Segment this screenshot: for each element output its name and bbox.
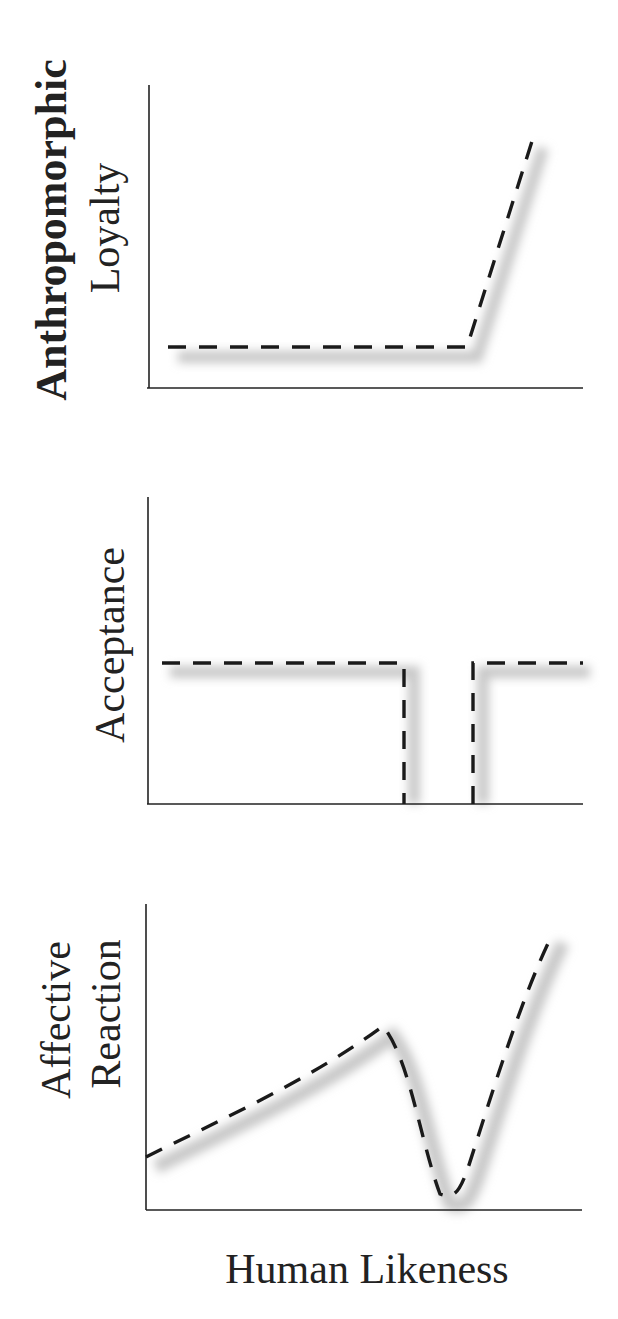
y-label-anthropomorphic: Anthropomorphic — [30, 59, 74, 400]
acceptance-dashed-line-right — [473, 663, 583, 804]
panel-anthropomorphic-loyalty — [147, 85, 583, 388]
y-label-loyalty: Loyalty — [84, 163, 126, 294]
y-label-acceptance: Acceptance — [89, 547, 131, 743]
acceptance-dashed-line-left — [162, 663, 404, 804]
y-label-affective: Affective — [35, 941, 77, 1099]
x-axis-label: Human Likeness — [225, 1248, 508, 1290]
line-shadow — [178, 148, 543, 357]
panel-affective-reaction — [146, 904, 582, 1210]
loyalty-dashed-line — [168, 138, 533, 347]
panel-acceptance — [147, 497, 590, 804]
y-label-reaction: Reaction — [85, 939, 127, 1088]
line-shadow — [156, 943, 563, 1206]
line-shadow — [170, 672, 590, 804]
